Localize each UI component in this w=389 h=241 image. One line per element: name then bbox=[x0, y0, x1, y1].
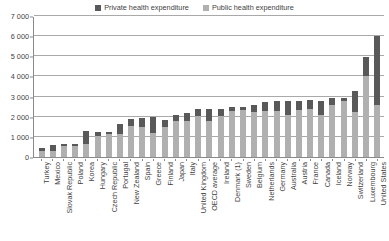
bar-series-container bbox=[35, 17, 384, 157]
bar-segment-public bbox=[262, 111, 268, 157]
x-tick-mark bbox=[164, 159, 165, 161]
legend-label-private: Private health expenditure bbox=[104, 4, 189, 12]
x-tick-slot: Spain bbox=[136, 159, 147, 241]
legend-item-public: Public health expenditure bbox=[203, 4, 294, 12]
x-tick-mark bbox=[332, 159, 333, 161]
bar-segment-public bbox=[218, 116, 224, 157]
x-tick-slot: Norway bbox=[338, 159, 349, 241]
bar-slot bbox=[305, 17, 316, 157]
stacked-bar[interactable] bbox=[106, 132, 112, 157]
x-tick-mark bbox=[74, 159, 75, 161]
stacked-bar[interactable] bbox=[329, 98, 335, 157]
stacked-bar[interactable] bbox=[162, 120, 168, 157]
stacked-bar[interactable] bbox=[229, 107, 235, 157]
bar-slot bbox=[137, 17, 148, 157]
stacked-bar[interactable] bbox=[318, 101, 324, 157]
y-axis: 01 0002 0003 0004 0005 0006 0007 000 bbox=[0, 17, 33, 158]
y-tick-label: 5 000 bbox=[11, 53, 29, 61]
bar-segment-public bbox=[106, 134, 112, 157]
bar-slot bbox=[327, 17, 338, 157]
bar-slot bbox=[204, 17, 215, 157]
stacked-bar[interactable] bbox=[274, 101, 280, 157]
x-tick-mark bbox=[287, 159, 288, 161]
x-tick-mark bbox=[355, 159, 356, 161]
bar-segment-private bbox=[285, 101, 291, 115]
x-tick-mark bbox=[119, 159, 120, 161]
stacked-bar[interactable] bbox=[296, 101, 302, 157]
bar-slot bbox=[282, 17, 293, 157]
bar-segment-private bbox=[150, 117, 156, 133]
stacked-bar[interactable] bbox=[341, 98, 347, 157]
bar-segment-private bbox=[274, 101, 280, 111]
bar-segment-private bbox=[162, 120, 168, 128]
x-tick-slot: Sweden bbox=[237, 159, 248, 241]
y-tick-label: 6 000 bbox=[11, 33, 29, 41]
stacked-bar[interactable] bbox=[374, 36, 380, 157]
stacked-bar[interactable] bbox=[128, 119, 134, 157]
stacked-bar[interactable] bbox=[50, 145, 56, 157]
stacked-bar[interactable] bbox=[218, 109, 224, 157]
bar-slot bbox=[114, 17, 125, 157]
legend-swatch-private-icon bbox=[95, 5, 101, 11]
stacked-bar[interactable] bbox=[262, 102, 268, 157]
x-tick-slot: France bbox=[304, 159, 315, 241]
stacked-bar[interactable] bbox=[39, 148, 45, 157]
x-tick-mark bbox=[366, 159, 367, 161]
bar-slot bbox=[92, 17, 103, 157]
x-tick-slot: Slovak Republic bbox=[57, 159, 68, 241]
x-tick-mark bbox=[97, 159, 98, 161]
x-tick-slot: United States bbox=[372, 159, 383, 241]
bar-slot bbox=[237, 17, 248, 157]
x-tick-mark bbox=[220, 159, 221, 161]
y-tick-label: 2 000 bbox=[11, 114, 29, 122]
x-tick-slot: Germany bbox=[271, 159, 282, 241]
x-tick-slot: Canada bbox=[315, 159, 326, 241]
stacked-bar[interactable] bbox=[307, 100, 313, 157]
x-tick-slot: Italy bbox=[181, 159, 192, 241]
stacked-bar[interactable] bbox=[139, 118, 145, 157]
x-tick-mark bbox=[231, 159, 232, 161]
stacked-bar[interactable] bbox=[117, 124, 123, 157]
legend-item-private: Private health expenditure bbox=[95, 4, 189, 12]
bar-segment-public bbox=[229, 111, 235, 157]
y-tick-label: 0 bbox=[25, 154, 29, 162]
bar-segment-private bbox=[83, 131, 89, 144]
bar-segment-private bbox=[128, 119, 134, 126]
stacked-bar[interactable] bbox=[72, 144, 78, 157]
stacked-bar[interactable] bbox=[352, 91, 358, 157]
bar-segment-public bbox=[251, 112, 257, 157]
bar-segment-public bbox=[184, 121, 190, 157]
x-tick-mark bbox=[254, 159, 255, 161]
x-tick-mark bbox=[377, 159, 378, 161]
stacked-bar[interactable] bbox=[150, 117, 156, 157]
stacked-bar[interactable] bbox=[173, 115, 179, 157]
bar-slot bbox=[360, 17, 371, 157]
bar-segment-public bbox=[72, 146, 78, 157]
stacked-bar[interactable] bbox=[363, 57, 369, 158]
x-tick-mark bbox=[265, 159, 266, 161]
stacked-bar[interactable] bbox=[95, 132, 101, 157]
bar-segment-public bbox=[195, 116, 201, 157]
x-tick-mark bbox=[63, 159, 64, 161]
bar-segment-public bbox=[240, 110, 246, 157]
stacked-bar[interactable] bbox=[240, 107, 246, 157]
x-tick-slot: Finland bbox=[158, 159, 169, 241]
bar-segment-private bbox=[195, 109, 201, 116]
bar-segment-private bbox=[251, 105, 257, 112]
stacked-bar[interactable] bbox=[285, 101, 291, 157]
x-tick-mark bbox=[243, 159, 244, 161]
x-tick-slot: Hungary bbox=[91, 159, 102, 241]
stacked-bar[interactable] bbox=[83, 131, 89, 157]
stacked-bar[interactable] bbox=[206, 109, 212, 157]
stacked-bar[interactable] bbox=[184, 113, 190, 157]
stacked-bar[interactable] bbox=[195, 109, 201, 157]
bar-slot bbox=[70, 17, 81, 157]
bar-segment-public bbox=[117, 134, 123, 157]
bar-slot bbox=[47, 17, 58, 157]
bar-segment-public bbox=[50, 151, 56, 157]
health-expenditure-chart: Private health expenditure Public health… bbox=[0, 0, 389, 241]
bar-segment-public bbox=[329, 105, 335, 157]
bar-segment-private bbox=[329, 98, 335, 106]
stacked-bar[interactable] bbox=[61, 144, 67, 157]
stacked-bar[interactable] bbox=[251, 105, 257, 157]
